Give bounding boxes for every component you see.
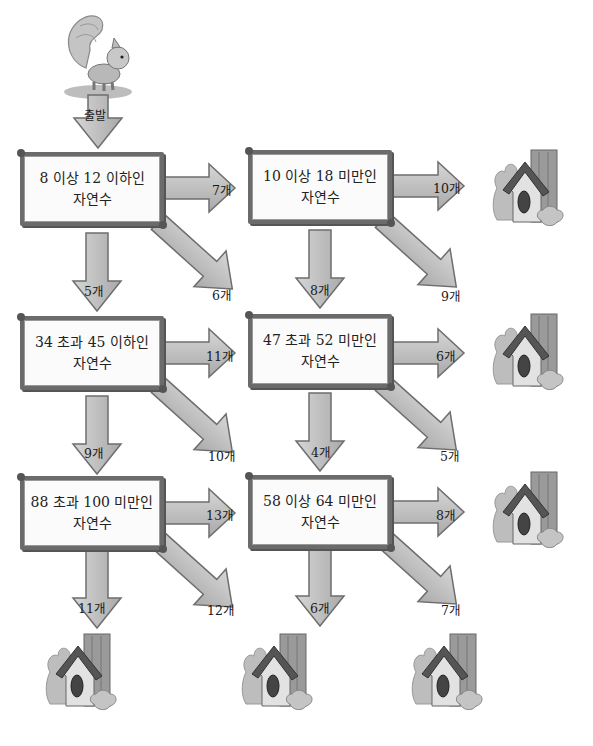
birdhouse-icon <box>44 632 124 712</box>
arrow-diag-count: 6개 <box>212 285 232 304</box>
birdhouse-icon <box>491 148 571 228</box>
arrow-down-count: 6개 <box>310 598 330 617</box>
condition-sign: 88 초과 100 미만인 자연수 <box>20 476 164 550</box>
arrow-down-count: 9개 <box>84 443 104 462</box>
arrow-down-count: 8개 <box>310 280 330 299</box>
birdhouse-icon <box>410 632 490 712</box>
sign-condition-text: 10 이상 18 미만인 <box>263 166 377 186</box>
birdhouse-icon <box>491 470 571 550</box>
birdhouse-icon <box>240 632 320 712</box>
condition-sign: 8 이상 12 이하인 자연수 <box>20 152 164 226</box>
sign-subject-text: 자연수 <box>301 186 340 208</box>
arrow-down-count: 4개 <box>311 442 331 461</box>
arrow-diag-count: 7개 <box>441 600 461 619</box>
arrow-right-count: 10개 <box>433 178 461 197</box>
arrow-right-count: 11개 <box>206 346 234 365</box>
sign-condition-text: 58 이상 64 미만인 <box>263 491 377 511</box>
arrow-down-count: 5개 <box>84 281 104 300</box>
birdhouse-icon <box>491 312 571 392</box>
arrow-diag-count: 12개 <box>207 600 235 619</box>
condition-sign: 34 초과 45 이하인 자연수 <box>20 316 164 390</box>
squirrel-icon <box>58 8 138 94</box>
condition-sign: 47 초과 52 미만인 자연수 <box>248 314 392 388</box>
condition-sign: 58 이상 64 미만인 자연수 <box>248 475 392 549</box>
arrow-right-count: 6개 <box>436 346 456 365</box>
sign-condition-text: 47 초과 52 미만인 <box>263 330 377 350</box>
arrow-right-count: 13개 <box>206 505 234 524</box>
start-label: 출발 <box>84 106 106 123</box>
arrow-right-count: 7개 <box>212 180 232 199</box>
arrow-diag-count: 5개 <box>440 446 460 465</box>
sign-subject-text: 자연수 <box>73 512 112 534</box>
sign-condition-text: 8 이상 12 이하인 <box>39 168 144 188</box>
arrow-diag-count: 9개 <box>441 286 461 305</box>
arrow-down-count: 11개 <box>78 598 106 617</box>
sign-subject-text: 자연수 <box>73 352 112 374</box>
sign-condition-text: 34 초과 45 이하인 <box>35 332 149 352</box>
condition-sign: 10 이상 18 미만인 자연수 <box>248 150 392 224</box>
sign-subject-text: 자연수 <box>301 350 340 372</box>
arrow-right-count: 8개 <box>436 505 456 524</box>
arrow-diag-count: 10개 <box>208 446 236 465</box>
sign-condition-text: 88 초과 100 미만인 <box>31 492 154 512</box>
sign-subject-text: 자연수 <box>73 188 112 210</box>
sign-subject-text: 자연수 <box>301 511 340 533</box>
